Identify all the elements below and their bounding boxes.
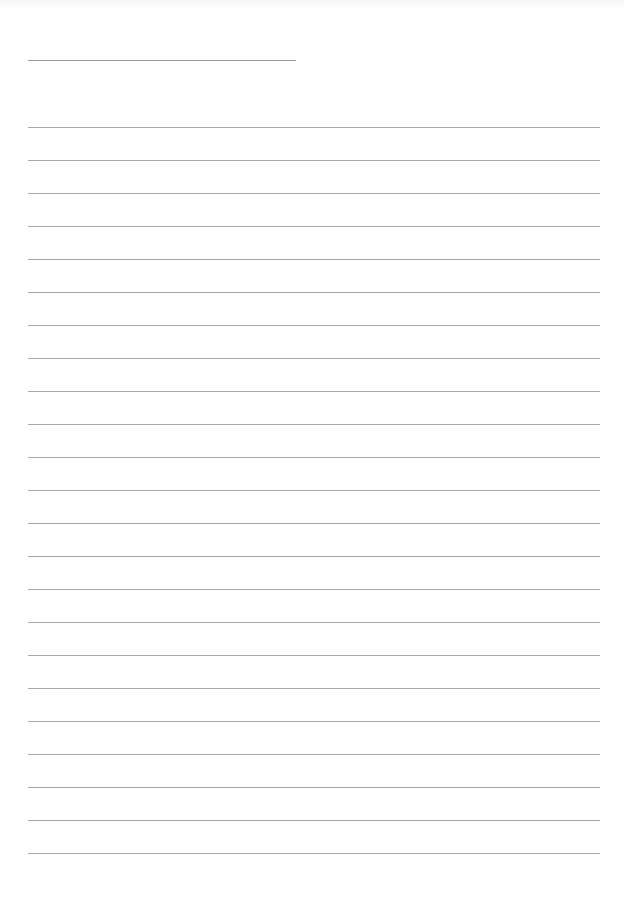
ruled-line [28,787,600,788]
ruled-line [28,523,600,524]
ruled-line [28,325,600,326]
ruled-line [28,127,600,128]
top-edge-shading [0,0,624,10]
title-line [28,60,296,61]
ruled-line [28,622,600,623]
ruled-line [28,226,600,227]
ruled-line [28,490,600,491]
ruled-line [28,853,600,854]
ruled-line [28,655,600,656]
ruled-line [28,754,600,755]
ruled-line [28,688,600,689]
ruled-line [28,424,600,425]
ruled-line [28,721,600,722]
ruled-line [28,820,600,821]
ruled-line [28,556,600,557]
ruled-line [28,391,600,392]
ruled-line [28,292,600,293]
ruled-line [28,259,600,260]
ruled-line [28,193,600,194]
ruled-line [28,589,600,590]
ruled-line [28,457,600,458]
lined-paper-page [0,0,624,905]
ruled-line [28,358,600,359]
ruled-line [28,160,600,161]
